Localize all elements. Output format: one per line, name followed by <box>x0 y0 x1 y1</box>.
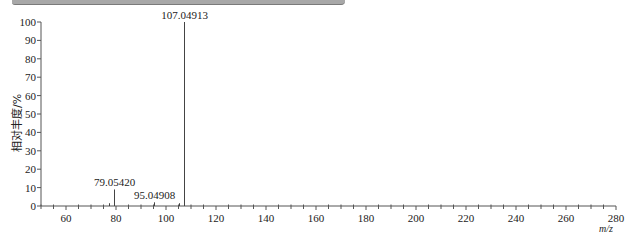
x-axis-label: m/z <box>599 223 613 234</box>
x-tick-label: 160 <box>308 212 325 224</box>
y-tick-label: 60 <box>25 90 37 102</box>
x-tick-label: 260 <box>558 212 575 224</box>
peak-label: 95.04908 <box>134 189 176 201</box>
axes: 0102030405060708090100608010012014016018… <box>20 16 625 224</box>
y-tick-label: 50 <box>25 108 37 120</box>
x-tick-label: 200 <box>408 212 425 224</box>
x-tick-label: 100 <box>158 212 175 224</box>
y-tick-label: 30 <box>25 145 37 157</box>
peak-label: 107.04913 <box>161 9 208 21</box>
y-tick-label: 40 <box>25 126 37 138</box>
y-tick-label: 70 <box>25 71 37 83</box>
y-tick-label: 0 <box>31 200 37 212</box>
x-tick-label: 140 <box>258 212 275 224</box>
x-tick-label: 60 <box>61 212 73 224</box>
y-tick-label: 90 <box>25 34 37 46</box>
peak-label: 79.05420 <box>94 176 136 188</box>
y-axis-label: 相对丰度/% <box>10 94 24 152</box>
peaks: 79.0542095.04908107.04913 <box>94 9 209 206</box>
x-tick-label: 220 <box>458 212 475 224</box>
x-tick-label: 120 <box>208 212 225 224</box>
x-tick-label: 80 <box>111 212 123 224</box>
x-tick-label: 240 <box>508 212 525 224</box>
y-tick-label: 10 <box>25 182 37 194</box>
y-tick-label: 80 <box>25 53 37 65</box>
y-tick-label: 100 <box>20 16 37 28</box>
mass-spectrum-chart: 0102030405060708090100608010012014016018… <box>0 0 632 243</box>
y-tick-label: 20 <box>25 163 37 175</box>
x-tick-label: 180 <box>358 212 375 224</box>
